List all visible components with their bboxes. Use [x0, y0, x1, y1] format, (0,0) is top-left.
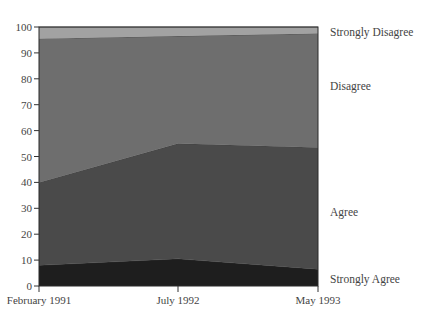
y-tick-label: 70	[21, 99, 33, 111]
y-tick-label: 0	[27, 280, 33, 292]
legend-agree: Agree	[330, 206, 358, 219]
y-tick-label: 20	[21, 228, 33, 240]
x-axis: February 1991July 1992May 1993	[7, 286, 341, 306]
y-tick-label: 60	[21, 125, 33, 137]
y-tick-label: 80	[21, 73, 33, 85]
y-tick-label: 10	[21, 254, 33, 266]
legend-strongly-agree: Strongly Agree	[330, 273, 400, 286]
y-tick-label: 90	[21, 47, 33, 59]
stacked-area-chart: 0102030405060708090100 February 1991July…	[0, 0, 425, 329]
legend-disagree: Disagree	[330, 80, 371, 93]
y-tick-label: 50	[21, 151, 33, 163]
y-tick-label: 30	[21, 202, 33, 214]
x-tick-label: July 1992	[156, 294, 199, 306]
y-tick-label: 40	[21, 176, 33, 188]
legend-strongly-disagree: Strongly Disagree	[330, 26, 413, 39]
y-tick-label: 100	[16, 21, 33, 33]
x-tick-label: May 1993	[296, 294, 341, 306]
x-tick-label: February 1991	[7, 294, 71, 306]
y-axis: 0102030405060708090100	[16, 21, 40, 292]
plot-areas	[39, 27, 318, 286]
